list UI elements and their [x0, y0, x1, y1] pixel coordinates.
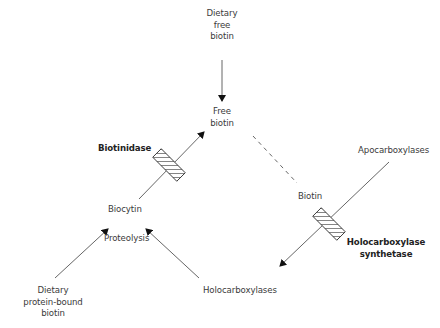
dashed-free-biotin-to-biotin [253, 136, 297, 183]
line: biotin [18, 308, 88, 320]
node-biotin: Biotin [298, 191, 322, 203]
arrow-holocarboxylases-to-biocytin [146, 229, 199, 278]
line: Holocarboxylase [346, 237, 426, 249]
node-free-biotin: Free biotin [197, 106, 247, 129]
node-dietary-protein-bound-biotin: Dietary protein-bound biotin [18, 285, 88, 320]
node-dietary-free-biotin: Dietary free biotin [197, 8, 247, 43]
diagram-canvas [0, 0, 440, 328]
arrow-protein-bound-to-biocytin [55, 229, 108, 278]
node-biocytin: Biocytin [108, 204, 142, 216]
line: biotin [197, 31, 247, 43]
line: Dietary [197, 8, 247, 20]
label-proteolysis: Proteolysis [104, 233, 149, 245]
biotinidase-block-icon [153, 149, 186, 182]
enzyme-holocarboxylase-synthetase: Holocarboxylase synthetase [346, 237, 426, 260]
line: free [197, 20, 247, 32]
holocarboxylase-synthetase-block-icon [313, 208, 346, 241]
enzyme-biotinidase: Biotinidase [98, 143, 151, 155]
node-apocarboxylases: Apocarboxylases [358, 145, 429, 157]
line: Free [197, 106, 247, 118]
line: protein-bound [18, 297, 88, 309]
line: synthetase [346, 249, 426, 261]
line: biotin [197, 118, 247, 130]
node-holocarboxylases: Holocarboxylases [203, 285, 277, 297]
line: Dietary [18, 285, 88, 297]
